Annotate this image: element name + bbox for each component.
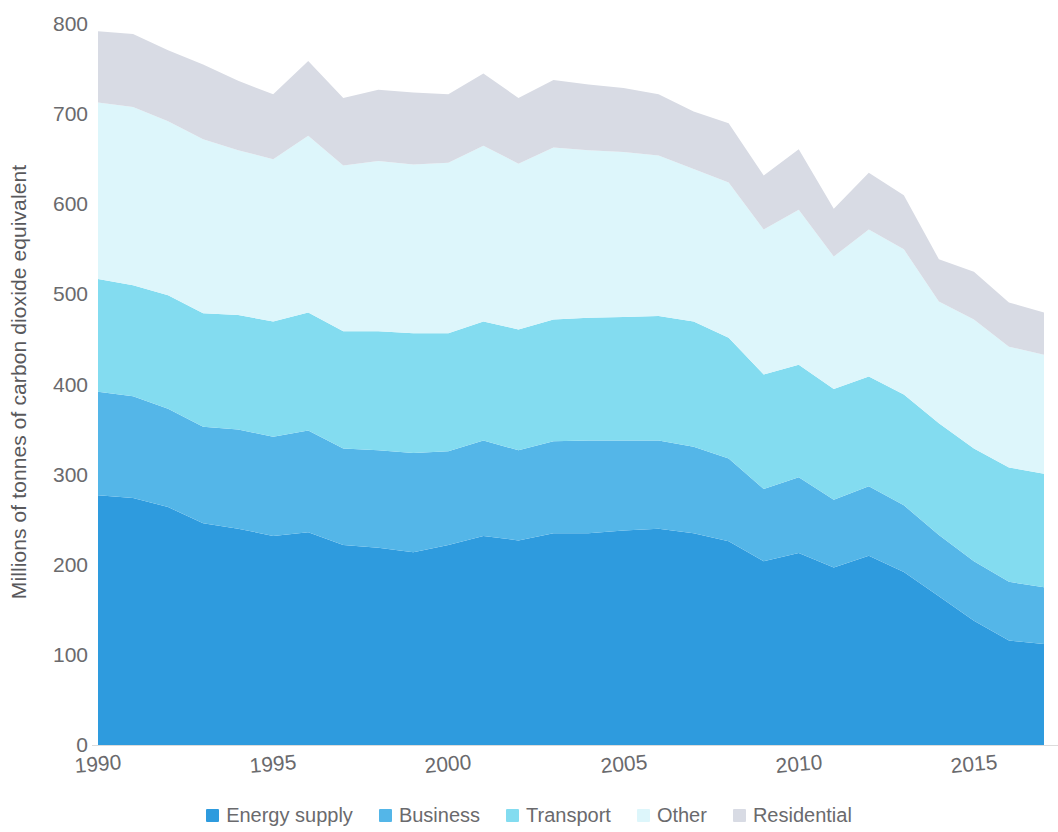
legend-item-energy-supply[interactable]: Energy supply	[206, 804, 353, 826]
legend-item-label: Energy supply	[226, 804, 353, 826]
x-tick-label: 2015	[928, 748, 1020, 780]
legend-item-residential[interactable]: Residential	[733, 804, 852, 826]
x-axis-tick-labels: 199019952000200520102015	[0, 0, 1058, 832]
legend-swatch-icon	[506, 809, 519, 822]
legend-swatch-icon	[379, 809, 392, 822]
legend-item-label: Business	[399, 804, 480, 826]
stacked-area-chart-figure: Millions of tonnes of carbon dioxide equ…	[0, 0, 1058, 832]
legend-item-label: Other	[657, 804, 707, 826]
legend-swatch-icon	[637, 809, 650, 822]
x-tick-label: 2010	[753, 748, 845, 780]
x-tick-label: 2005	[578, 748, 670, 780]
legend-item-business[interactable]: Business	[379, 804, 480, 826]
legend-item-transport[interactable]: Transport	[506, 804, 611, 826]
legend-swatch-icon	[733, 809, 746, 822]
legend-swatch-icon	[206, 809, 219, 822]
legend-item-label: Transport	[526, 804, 611, 826]
legend-item-label: Residential	[753, 804, 852, 826]
x-tick-label: 1995	[227, 748, 319, 780]
x-tick-label: 1990	[52, 748, 144, 780]
chart-legend: Energy supplyBusinessTransportOtherResid…	[0, 798, 1058, 832]
x-tick-label: 2000	[402, 748, 494, 780]
legend-item-other[interactable]: Other	[637, 804, 707, 826]
